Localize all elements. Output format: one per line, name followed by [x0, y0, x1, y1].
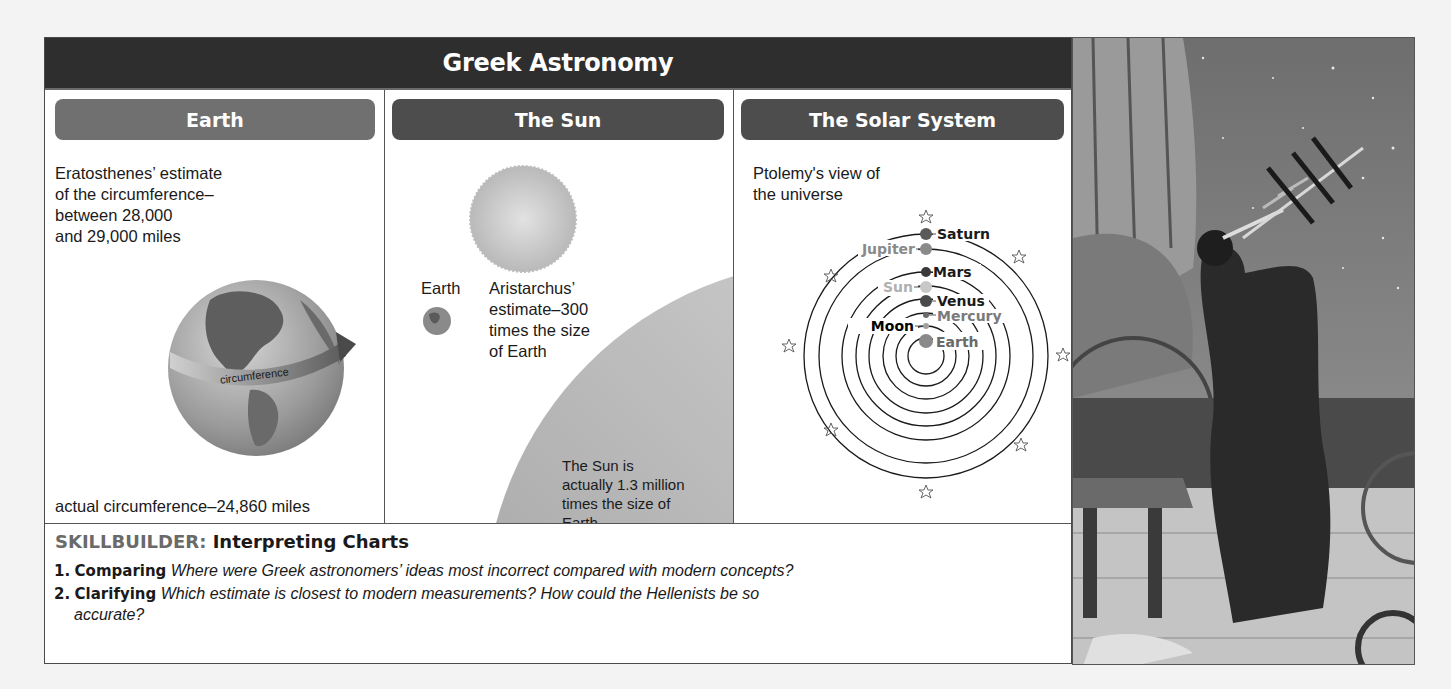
question-2-continued: accurate? [74, 604, 1074, 625]
moon-label: Moon [871, 318, 914, 334]
question-text: Where were Greek astronomers’ ideas most… [171, 562, 793, 579]
saturn-label: Saturn [937, 226, 990, 242]
jupiter-icon [920, 243, 932, 255]
text-line: The Sun is [562, 456, 685, 475]
sun-earth-label: Earth [421, 278, 460, 299]
text-line: times the size of [562, 494, 685, 513]
question-text: Which estimate is closest to modern meas… [161, 585, 759, 602]
chart-title: Greek Astronomy [45, 38, 1071, 90]
jupiter-label: Jupiter [861, 241, 915, 257]
greek-astronomy-chart: Greek Astronomy Earth Eratosthenes’ esti… [44, 37, 1072, 664]
sun-icon [920, 281, 932, 293]
earth-label: Earth [936, 334, 979, 350]
text-line: Earth. [562, 513, 685, 523]
earth-icon [919, 334, 933, 348]
text-line: Aristarchus’ [489, 278, 590, 299]
skillbuilder-lead: SKILLBUILDER: [55, 531, 206, 552]
moon-icon [923, 323, 929, 329]
question-keyword: Comparing [75, 562, 167, 580]
mercury-icon [923, 312, 929, 318]
estimated-sun-icon [470, 166, 576, 272]
skillbuilder-section: SKILLBUILDER: Interpreting Charts 1. Com… [45, 523, 1071, 663]
question-keyword: Clarifying [75, 585, 157, 603]
text-line: estimate–300 [489, 299, 590, 320]
saturn-icon [920, 228, 932, 240]
column-sun: The Sun Earth Aristarchus’ estimate–300 … [384, 90, 734, 523]
text-line: of the circumference– [55, 184, 222, 205]
skillbuilder-title: SKILLBUILDER: Interpreting Charts [55, 531, 409, 552]
text-line: Eratosthenes’ estimate [55, 163, 222, 184]
question-2: 2. Clarifying Which estimate is closest … [54, 583, 1054, 605]
mars-label: Mars [933, 264, 972, 280]
earth-actual-text: actual circumference–24,860 miles [55, 496, 385, 517]
column-header-sun: The Sun [392, 99, 724, 140]
skillbuilder-heading: Interpreting Charts [213, 531, 409, 552]
sun-estimate-text: Aristarchus’ estimate–300 times the size… [489, 278, 590, 362]
engraving-illustration [1073, 38, 1415, 665]
mercury-label: Mercury [937, 308, 1002, 324]
text-line: and 29,000 miles [55, 226, 222, 247]
text-line: actually 1.3 million [562, 475, 685, 494]
mars-icon [921, 267, 931, 277]
text-line: times the size [489, 320, 590, 341]
question-number: 1. [54, 562, 70, 580]
astronomer-engraving-image [1072, 37, 1415, 665]
venus-icon [920, 295, 932, 307]
ptolemy-diagram: Saturn Jupiter Mars Sun Venus Mercury Mo… [733, 90, 1073, 523]
question-number: 2. [54, 585, 70, 603]
globe-icon: circumference [150, 270, 370, 470]
text-line: of Earth [489, 341, 590, 362]
earth-estimate-text: Eratosthenes’ estimate of the circumfere… [55, 163, 222, 247]
sun-label: Sun [883, 279, 913, 295]
column-solar-system: The Solar System Ptolemy's view of the u… [733, 90, 1073, 523]
venus-label: Venus [937, 293, 985, 309]
column-earth: Earth Eratosthenes’ estimate of the circ… [45, 90, 385, 523]
sun-actual-text: The Sun is actually 1.3 million times th… [562, 456, 685, 523]
question-text: accurate? [74, 606, 144, 623]
question-1: 1. Comparing Where were Greek astronomer… [54, 560, 1054, 582]
text-line: between 28,000 [55, 205, 222, 226]
column-header-earth: Earth [55, 99, 375, 140]
